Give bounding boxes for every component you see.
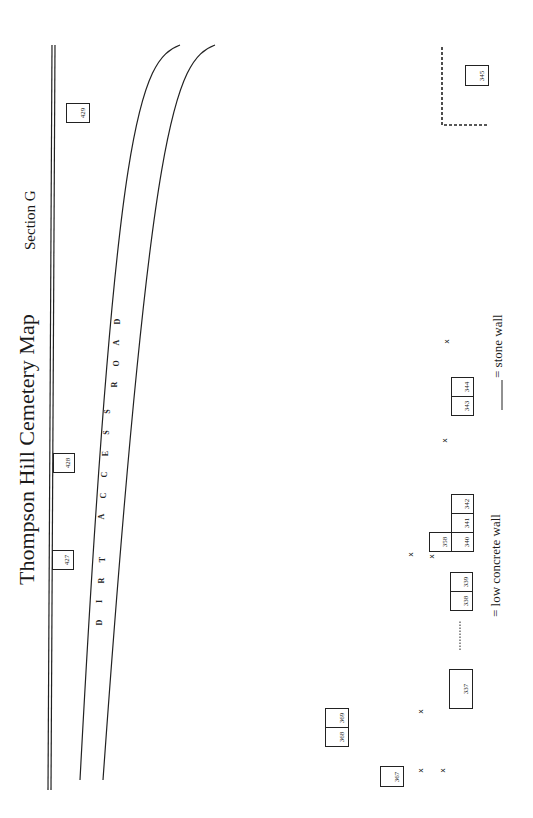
plot-342[interactable]: 342 [451,494,474,514]
x-marker: x [416,769,425,773]
road-letter: S [103,409,112,413]
x-marker: x [440,439,449,443]
plot-429[interactable]: 429 [66,103,90,123]
plot-343[interactable]: 343 [451,396,474,416]
cemetery-map: Thompson Hill Cemetery Map Section G D I… [0,0,533,818]
road-letter: S [102,430,111,434]
plot-369[interactable]: 369 [325,708,349,728]
road-letter: D [113,319,122,325]
plot-341[interactable]: 341 [451,513,474,533]
x-marker: x [438,769,447,773]
road-letter: I [95,600,104,603]
road-letter: C [100,472,109,478]
road-letter: D [95,620,104,626]
plot-367[interactable]: 367 [380,766,404,787]
road-letter: E [101,451,110,456]
x-marker: x [442,340,451,344]
legend-concrete-wall: = low concrete wall [488,514,504,617]
map-title: Thompson Hill Cemetery Map [14,314,40,585]
plot-368[interactable]: 368 [325,727,349,747]
plot-427[interactable]: 427 [52,550,74,570]
road-letter: C [99,493,108,499]
road-letter: T [98,557,107,562]
legend-stone-wall: = stone wall [490,314,506,378]
road-letter: O [112,360,121,366]
road-letter: A [112,340,121,346]
x-marker: x [427,555,436,559]
x-marker: x [406,553,415,557]
road-letter: R [97,578,106,584]
section-label: Section G [22,190,39,250]
x-marker: x [416,710,425,714]
plot-345[interactable]: 345 [465,65,489,86]
plot-340[interactable]: 340 [451,532,474,552]
plot-428[interactable]: 428 [53,453,75,473]
road-letter: R [110,382,119,388]
plot-339[interactable]: 339 [450,572,473,592]
plot-338[interactable]: 338 [450,591,473,611]
plot-344[interactable]: 344 [451,377,474,397]
road-letter: A [97,514,106,520]
plot-358[interactable]: 358 [429,532,452,552]
plot-337[interactable]: 337 [449,669,473,709]
